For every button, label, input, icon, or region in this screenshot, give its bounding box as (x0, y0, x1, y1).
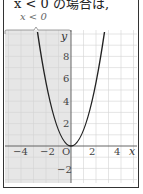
x-axis-label: x (129, 145, 136, 158)
y-tick-label: 2 (63, 118, 69, 129)
y-tick-label: 6 (63, 73, 69, 84)
origin-label: O (62, 146, 70, 157)
shaded-region (5, 30, 71, 183)
y-tick-label: −2 (57, 164, 72, 175)
x-tick-label: 4 (114, 146, 120, 157)
y-axis-label: y (60, 30, 68, 43)
x-tick-label: −2 (40, 146, 55, 157)
y-tick-label: 8 (63, 51, 69, 62)
x-tick-label: 2 (89, 146, 95, 157)
parabola-graph: −4 −2 O 2 4 x y 8 6 4 2 −2 (0, 0, 143, 194)
x-tick-label: −4 (13, 146, 28, 157)
y-tick-label: 4 (63, 96, 69, 107)
